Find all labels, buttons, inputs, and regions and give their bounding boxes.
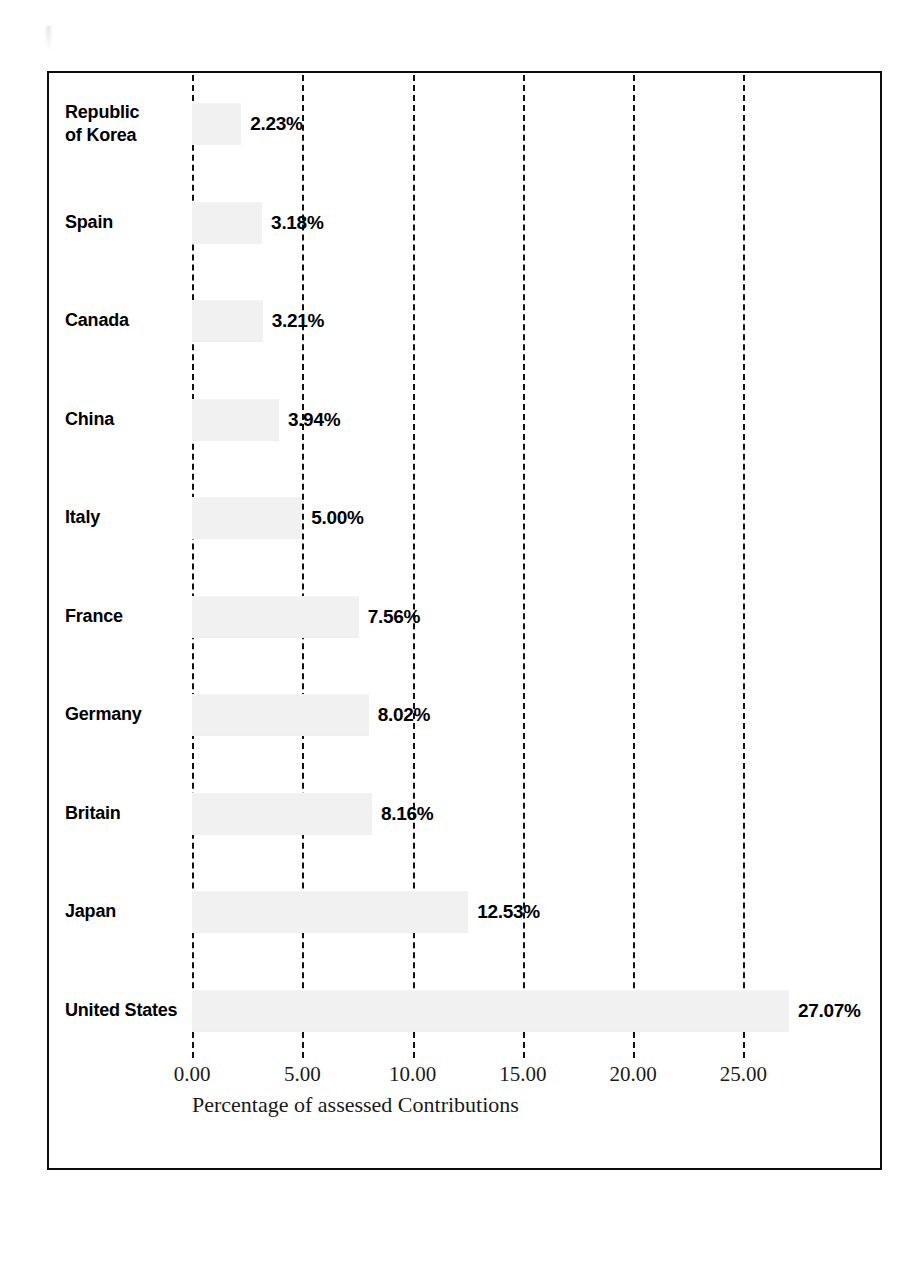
category-label: Italy xyxy=(65,507,193,530)
bar-value-label: 7.56% xyxy=(368,606,420,628)
bar-value-label: 3.94% xyxy=(288,409,340,431)
category-label: France xyxy=(65,605,193,628)
bar-value-label: 3.18% xyxy=(271,212,323,234)
bar-row: Spain3.18% xyxy=(49,174,884,273)
bar-row: Canada3.21% xyxy=(49,272,884,371)
bar-row: Britain8.16% xyxy=(49,765,884,864)
category-label: Canada xyxy=(65,310,193,333)
x-tick-label: 25.00 xyxy=(720,1062,767,1087)
category-label: Britain xyxy=(65,802,193,825)
bar-row: Germany8.02% xyxy=(49,666,884,765)
bar-rows: Republicof Korea2.23%Spain3.18%Canada3.2… xyxy=(49,73,884,1058)
bar xyxy=(192,990,789,1032)
bar xyxy=(192,497,302,539)
bar xyxy=(192,694,369,736)
x-tick-label: 20.00 xyxy=(609,1062,656,1087)
bar xyxy=(192,300,263,342)
bar-value-label: 27.07% xyxy=(798,1000,861,1022)
bar-row: Italy5.00% xyxy=(49,469,884,568)
bar xyxy=(192,596,359,638)
bar xyxy=(192,202,262,244)
chart-frame: Republicof Korea2.23%Spain3.18%Canada3.2… xyxy=(47,71,882,1170)
bar xyxy=(192,399,279,441)
x-tick-label: 5.00 xyxy=(284,1062,321,1087)
x-tick-label: 0.00 xyxy=(174,1062,211,1087)
bar-value-label: 12.53% xyxy=(477,901,540,923)
bar-row: Japan12.53% xyxy=(49,863,884,962)
bar-value-label: 8.16% xyxy=(381,803,433,825)
bar-value-label: 5.00% xyxy=(311,507,363,529)
category-label: Republicof Korea xyxy=(65,101,193,147)
x-tick-label: 10.00 xyxy=(389,1062,436,1087)
bar-row: France7.56% xyxy=(49,568,884,667)
bar xyxy=(192,793,372,835)
x-tick-label: 15.00 xyxy=(499,1062,546,1087)
x-axis-title: Percentage of assessed Contributions xyxy=(192,1092,519,1118)
category-label: United States xyxy=(65,999,193,1022)
category-label: Japan xyxy=(65,901,193,924)
category-label: Germany xyxy=(65,704,193,727)
category-label: China xyxy=(65,408,193,431)
bar xyxy=(192,103,241,145)
bar xyxy=(192,891,468,933)
bar-row: United States27.07% xyxy=(49,962,884,1061)
bar-value-label: 2.23% xyxy=(250,113,302,135)
scan-artifact xyxy=(46,26,51,52)
bar-value-label: 3.21% xyxy=(272,310,324,332)
bar-row: China3.94% xyxy=(49,371,884,470)
bar-value-label: 8.02% xyxy=(378,704,430,726)
x-axis: Percentage of assessed Contributions 0.0… xyxy=(192,1056,884,1168)
bar-row: Republicof Korea2.23% xyxy=(49,75,884,174)
category-label: Spain xyxy=(65,211,193,234)
